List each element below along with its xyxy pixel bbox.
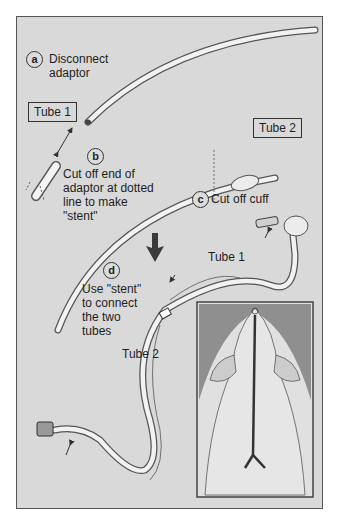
step-d-text-4: tubes — [82, 324, 111, 338]
step-b-marker: b — [87, 148, 104, 165]
step-a-text-2: adaptor — [49, 66, 90, 80]
tube-2-label: Tube 2 — [122, 347, 159, 361]
step-d-text-3: the two — [82, 310, 121, 324]
connector-end — [37, 422, 53, 436]
step-d-marker: d — [103, 262, 120, 279]
step-b-text-1: Cut off end of — [63, 167, 135, 181]
step-c-marker: c — [192, 191, 209, 208]
step-d-text-2: to connect — [82, 296, 137, 310]
tube-1-label: Tube 1 — [208, 250, 245, 264]
step-b-text-4: "stent" — [63, 209, 98, 223]
tube-1-box-label: Tube 1 — [28, 102, 77, 122]
connect-arrow-a — [58, 128, 72, 152]
inset-animal-view — [197, 302, 313, 497]
cuff — [230, 173, 261, 194]
tube-tip — [255, 216, 278, 228]
step-c-text: Cut off cuff — [211, 192, 269, 206]
down-arrow-icon — [146, 233, 164, 262]
step-d-text-1: Use "stent" — [82, 282, 141, 296]
step-b-text-3: line to make — [63, 195, 128, 209]
tube-opening — [85, 120, 91, 125]
step-b-text-2: adaptor at dotted — [63, 181, 154, 195]
cuff-assembled — [284, 216, 308, 236]
adaptor-piece — [26, 166, 56, 200]
tube-1-shaft — [85, 30, 315, 125]
tube-2-box-label: Tube 2 — [253, 118, 302, 138]
step-a-marker: a — [26, 51, 43, 68]
step-a-text-1: Disconnect — [49, 52, 108, 66]
